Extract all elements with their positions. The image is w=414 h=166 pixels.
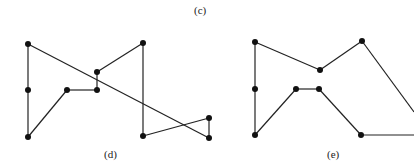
node — [206, 135, 212, 141]
edge — [362, 41, 414, 112]
edge — [319, 89, 361, 135]
label-d: (d) — [104, 148, 117, 161]
node — [317, 67, 323, 73]
node — [94, 69, 100, 75]
edge — [255, 89, 296, 135]
node — [25, 87, 31, 93]
label-c: (c) — [194, 4, 207, 17]
graph-d — [25, 40, 212, 141]
node — [94, 87, 100, 93]
label-e: (e) — [327, 148, 340, 161]
node — [359, 38, 365, 44]
node — [140, 40, 146, 46]
node — [64, 87, 70, 93]
node — [252, 132, 258, 138]
edge — [320, 41, 362, 70]
node — [293, 86, 299, 92]
diagram-canvas: (c) (d) (e) — [0, 0, 414, 166]
node — [140, 133, 146, 139]
node — [25, 41, 31, 47]
node — [316, 86, 322, 92]
node — [358, 132, 364, 138]
edge — [255, 42, 320, 70]
edge — [97, 43, 143, 72]
node — [25, 134, 31, 140]
node — [252, 39, 258, 45]
edge — [28, 90, 67, 137]
graph-e — [252, 38, 414, 138]
node — [252, 86, 258, 92]
node — [206, 115, 212, 121]
